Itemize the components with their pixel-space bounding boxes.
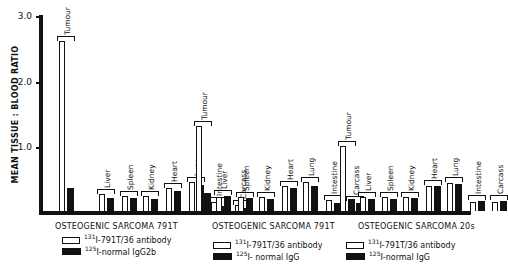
- filled-bar-swatch: [213, 253, 232, 260]
- bar-antibody: [59, 41, 65, 211]
- bar-normal-igg: [107, 198, 114, 211]
- bar-antibody: [382, 197, 388, 211]
- bar-antibody: [216, 197, 222, 211]
- bar-normal-igg: [174, 191, 181, 211]
- bar-normal-igg: [368, 199, 375, 211]
- filled-bar-swatch: [346, 253, 365, 260]
- legend-item-open: 131I-791T/36 antibody: [62, 233, 171, 245]
- y-tick-label: 1.0: [4, 142, 32, 152]
- bar-antibody: [238, 197, 244, 211]
- legend-item-filled: 125I-normal IgG2b: [62, 245, 171, 257]
- bar-normal-igg: [455, 184, 462, 212]
- bar-normal-igg: [204, 193, 211, 211]
- category-bracket: [236, 192, 254, 197]
- bar-antibody: [303, 182, 309, 211]
- category-bracket: [120, 191, 138, 196]
- bar-antibody: [403, 197, 409, 211]
- category-label: Kidney: [147, 164, 156, 190]
- category-bracket: [301, 177, 319, 182]
- category-label: Liver: [364, 172, 373, 190]
- category-label: Kidney: [407, 165, 416, 191]
- open-bar-swatch: [346, 242, 364, 249]
- category-label: Spleen: [386, 165, 395, 191]
- bar-antibody: [447, 183, 453, 212]
- legend-1: 131I-791T/36 antibody 125I-normal IgG2b: [62, 233, 171, 256]
- open-bar-swatch: [213, 242, 231, 249]
- category-label: Tumour: [200, 92, 209, 120]
- bar-antibody: [196, 126, 202, 211]
- category-label: Heart: [286, 159, 295, 180]
- bar-normal-igg: [390, 199, 397, 211]
- y-tick-label: 3.0: [4, 11, 32, 21]
- bar-antibody: [143, 196, 149, 211]
- legend-3: 131I-791T/36 antibody 125I-normal IgG: [346, 238, 455, 261]
- category-label: Liver: [220, 171, 229, 189]
- category-label: Heart: [430, 158, 439, 179]
- bar-normal-igg: [224, 196, 231, 211]
- bar-antibody: [189, 182, 195, 211]
- bar-normal-igg: [348, 199, 355, 211]
- category-bracket: [141, 191, 159, 196]
- category-bracket: [194, 121, 212, 126]
- bar-antibody: [259, 197, 265, 211]
- category-label: Liver: [103, 169, 112, 187]
- bar-normal-igg: [130, 198, 137, 211]
- bar-antibody: [166, 188, 172, 211]
- legend-item-open: 131I-791T/36 antibody: [346, 238, 455, 250]
- bar-normal-igg: [311, 186, 318, 211]
- bar-antibody: [99, 194, 105, 211]
- category-bracket: [468, 195, 486, 200]
- bar-normal-igg: [67, 188, 74, 211]
- bar-normal-igg: [267, 199, 274, 211]
- y-axis-label: MEAN TISSUE : BLOOD RATIO: [11, 30, 20, 200]
- category-label: Lung: [451, 158, 460, 176]
- legend-2: 131I-791T/36 antibody 125I- normal IgG: [213, 238, 322, 261]
- y-tick: [36, 147, 40, 149]
- category-bracket: [338, 141, 356, 146]
- category-bracket: [358, 192, 376, 197]
- panel-title-2: OSTEOGENIC SARCOMA 791T: [212, 222, 335, 231]
- bar-antibody: [282, 186, 288, 211]
- category-bracket: [280, 181, 298, 186]
- bar-normal-igg: [246, 198, 253, 211]
- bar-antibody: [326, 200, 332, 211]
- bar-normal-igg: [434, 186, 441, 211]
- legend-item-open: 131I-791T/36 antibody: [213, 238, 322, 250]
- y-tick-label: 2.0: [4, 77, 32, 87]
- category-bracket: [490, 195, 508, 200]
- category-bracket: [401, 192, 419, 197]
- panel-title-3: OSTEOGENIC SARCOMA 20s: [358, 222, 475, 231]
- category-label: Spleen: [126, 164, 135, 190]
- bar-normal-igg: [290, 188, 297, 211]
- category-bracket: [257, 192, 275, 197]
- bar-antibody: [426, 186, 432, 211]
- legend-item-filled: 125I-normal IgG: [346, 250, 455, 262]
- bar-normal-igg: [478, 201, 485, 211]
- y-tick: [36, 82, 40, 84]
- category-bracket: [57, 36, 75, 41]
- category-bracket: [164, 183, 182, 188]
- category-label: Tumour: [63, 7, 72, 35]
- category-label: Spleen: [242, 165, 251, 191]
- x-axis: [39, 211, 471, 215]
- category-bracket: [445, 177, 463, 182]
- category-label: Carcass: [496, 164, 505, 193]
- bar-antibody: [122, 196, 128, 211]
- bar-normal-igg: [500, 201, 507, 211]
- category-label: Lung: [307, 158, 316, 176]
- bar-antibody: [470, 202, 476, 212]
- bar-normal-igg: [411, 198, 418, 211]
- filled-bar-swatch: [62, 248, 81, 255]
- bar-antibody: [492, 202, 498, 212]
- bar-antibody: [340, 146, 346, 211]
- category-label: Intestine: [474, 161, 483, 194]
- bar-normal-igg: [151, 199, 158, 211]
- category-bracket: [97, 189, 115, 194]
- category-bracket: [214, 190, 232, 195]
- bar-antibody: [360, 197, 366, 211]
- category-label: Kidney: [263, 165, 272, 191]
- category-label: Tumour: [344, 113, 353, 141]
- category-bracket: [424, 180, 442, 185]
- legend-item-filled: 125I- normal IgG: [213, 250, 322, 262]
- category-bracket: [380, 192, 398, 197]
